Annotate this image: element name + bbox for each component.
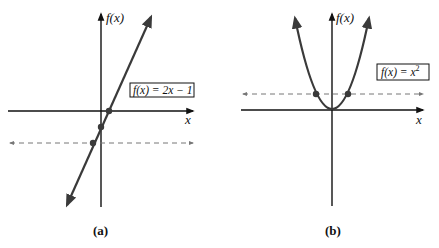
figure: f(x) x f(x) = 2x − 1 (a) f(x) x f(x) = x…: [0, 0, 439, 248]
panel-b: f(x) x f(x) = x2 (b): [241, 10, 429, 238]
panel-a: f(x) x f(x) = 2x − 1 (a): [8, 10, 194, 238]
point: [313, 91, 319, 97]
point: [90, 140, 96, 146]
x-axis-label: x: [184, 112, 191, 127]
point: [345, 91, 351, 97]
caption-b: (b): [325, 223, 341, 238]
x-axis-label: x: [415, 112, 422, 127]
point: [98, 124, 104, 130]
caption-a: (a): [93, 223, 108, 238]
function-label: f(x) = 2x − 1: [133, 84, 193, 97]
y-axis-label: f(x): [106, 10, 124, 25]
point: [106, 108, 112, 114]
y-axis-label: f(x): [336, 10, 354, 25]
function-label: f(x) = x2: [381, 64, 420, 79]
